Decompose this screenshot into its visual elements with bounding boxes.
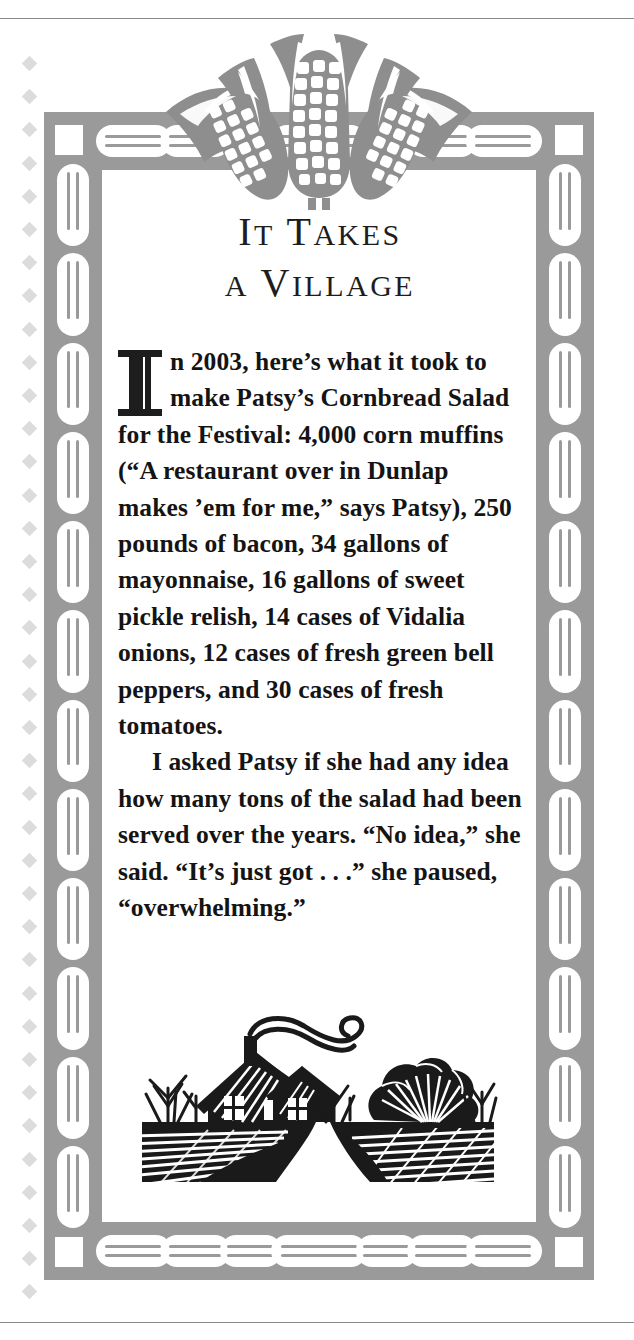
border-kernel-ornament (549, 610, 581, 692)
kernel-slit (568, 351, 571, 409)
kernel-slit (559, 351, 562, 409)
kernel-slit (415, 1254, 467, 1257)
diamond-marker (22, 1118, 38, 1134)
diamond-marker (22, 487, 38, 503)
kernel-slit (67, 618, 70, 676)
page-title-line-1: IT TAKES (118, 208, 522, 259)
diamond-marker (22, 521, 38, 537)
diamond-marker (22, 819, 38, 835)
frame-corner-bottom-left (55, 1237, 83, 1267)
diamond-marker (22, 89, 38, 105)
kernel-slit (67, 1154, 70, 1212)
book-page: IT TAKES A VILLAGE n 2003, here’s what i… (0, 0, 634, 1340)
diamond-marker (22, 1218, 38, 1234)
kernel-slit (169, 1245, 221, 1248)
kernel-slit (227, 1245, 273, 1248)
border-kernel-ornament (57, 1146, 89, 1228)
kernel-slit (568, 1154, 571, 1212)
page-rule-top (0, 18, 634, 19)
kernel-slit (76, 261, 79, 319)
kernel-slit (568, 440, 571, 498)
article-paragraph-2: I asked Patsy if she had any idea how ma… (118, 744, 522, 926)
kernel-slit (105, 1254, 161, 1257)
border-kernel-ornament (57, 432, 89, 514)
border-kernel-ornament (57, 1057, 89, 1139)
border-kernel-ornament (549, 967, 581, 1049)
kernel-slit (568, 886, 571, 944)
kernel-slit (475, 135, 531, 138)
corn-ears-icon (158, 28, 480, 210)
border-kernel-ornament (549, 878, 581, 960)
border-kernel-ornament (57, 253, 89, 335)
frame-corner-top-left (55, 125, 83, 155)
diamond-marker (22, 687, 38, 703)
kernel-slit (559, 708, 562, 766)
kernel-slit (568, 1065, 571, 1123)
diamond-marker (22, 122, 38, 138)
kernel-slit (67, 440, 70, 498)
kernel-slit (475, 144, 531, 147)
kernel-slit (76, 618, 79, 676)
border-kernel-ornament (271, 1235, 367, 1267)
diamond-marker (22, 620, 38, 636)
kernel-slit (67, 797, 70, 855)
diamond-marker (22, 1284, 38, 1300)
kernel-slit (67, 529, 70, 587)
diamond-marker (22, 853, 38, 869)
diamond-marker (22, 952, 38, 968)
diamond-marker (22, 554, 38, 570)
border-kernel-ornament (57, 967, 89, 1049)
border-kernel-ornament (549, 432, 581, 514)
article-body: n 2003, here’s what it took to make Pats… (118, 344, 522, 927)
kernel-slit (559, 618, 562, 676)
kernel-slit (67, 351, 70, 409)
diamond-marker (22, 919, 38, 935)
kernel-slit (76, 975, 79, 1033)
kernel-slit (559, 886, 562, 944)
diamond-marker (22, 653, 38, 669)
kernel-slit (568, 708, 571, 766)
kernel-slit (559, 1065, 562, 1123)
kernel-slit (568, 172, 571, 230)
kernel-slit (568, 261, 571, 319)
kernel-slit (76, 708, 79, 766)
diamond-marker (22, 985, 38, 1001)
border-kernel-ornament (549, 521, 581, 603)
kernel-slit (76, 440, 79, 498)
page-title: IT TAKES A VILLAGE (118, 208, 522, 310)
diamond-marker (22, 321, 38, 337)
diamond-marker (22, 1085, 38, 1101)
kernel-slit (76, 1154, 79, 1212)
diamond-marker (22, 288, 38, 304)
kernel-slit (67, 708, 70, 766)
diamond-marker (22, 56, 38, 72)
kernel-slit (281, 1254, 358, 1257)
kernel-slit (363, 1254, 409, 1257)
kernel-slit (559, 797, 562, 855)
kernel-slit (363, 1245, 409, 1248)
border-kernel-ornament (549, 789, 581, 871)
kernel-slit (281, 1245, 358, 1248)
diamond-marker (22, 255, 38, 271)
border-kernel-ornament (57, 700, 89, 782)
kernel-slit (568, 975, 571, 1033)
border-kernel-ornament (549, 700, 581, 782)
kernel-slit (105, 1245, 161, 1248)
kernel-slit (568, 529, 571, 587)
kernel-slit (76, 797, 79, 855)
diamond-marker (22, 720, 38, 736)
kernel-slit (67, 172, 70, 230)
diamond-marker (22, 786, 38, 802)
kernel-slit (568, 618, 571, 676)
page-rule-bottom (0, 1322, 634, 1323)
frame-corner-bottom-right (555, 1237, 583, 1267)
article-paragraph-1-text: n 2003, here’s what it took to make Pats… (118, 347, 512, 740)
kernel-slit (227, 1254, 273, 1257)
border-kernel-ornament (549, 1057, 581, 1139)
kernel-slit (568, 797, 571, 855)
border-kernel-ornament (57, 789, 89, 871)
kernel-slit (475, 1254, 531, 1257)
kernel-slit (76, 351, 79, 409)
kernel-slit (67, 261, 70, 319)
border-kernel-ornament (57, 343, 89, 425)
